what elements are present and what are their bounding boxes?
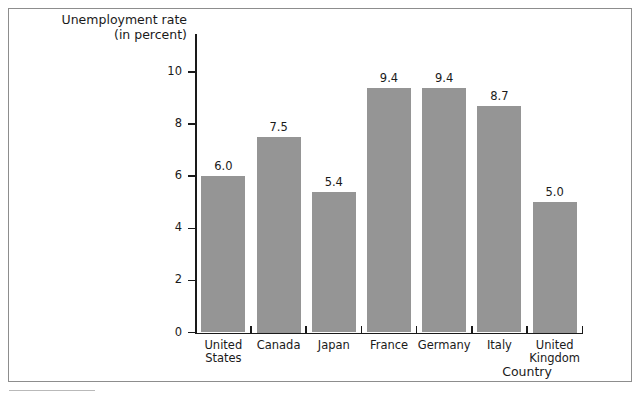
category-label-line: States xyxy=(190,352,256,366)
bar xyxy=(367,88,411,333)
bar-value-label: 5.0 xyxy=(525,186,585,198)
bar-value-label: 9.4 xyxy=(414,72,474,84)
bar xyxy=(312,192,356,333)
bar-value-label: 6.0 xyxy=(193,160,253,172)
x-axis-title: Country xyxy=(472,364,582,379)
bar-value-label: 7.5 xyxy=(249,121,309,133)
chart-figure: Unemployment rate (in percent) 0246810 6… xyxy=(0,0,642,402)
bar xyxy=(257,137,301,332)
bar xyxy=(533,202,577,332)
bars-layer xyxy=(0,0,642,333)
bar-value-label: 9.4 xyxy=(359,72,419,84)
category-label-line: United xyxy=(522,339,588,353)
bar-value-label: 5.4 xyxy=(304,176,364,188)
bar-value-label: 8.7 xyxy=(469,90,529,102)
bar xyxy=(422,88,466,333)
bar xyxy=(201,176,245,332)
plot-area: Unemployment rate (in percent) 0246810 6… xyxy=(0,0,642,402)
category-label: UnitedKingdom xyxy=(522,339,588,366)
bar xyxy=(477,106,521,333)
